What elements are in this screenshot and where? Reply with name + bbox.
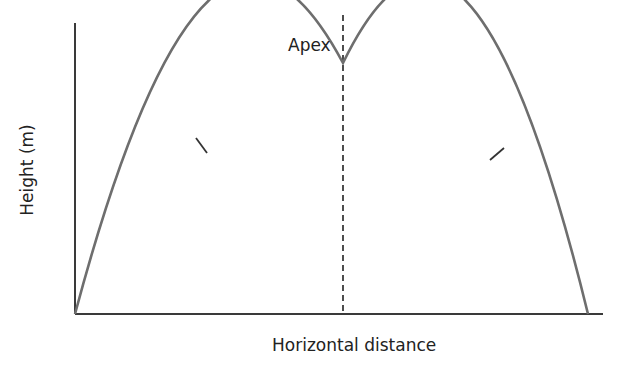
apex-label: Apex: [288, 35, 331, 55]
x-axis-label: Horizontal distance: [272, 335, 436, 355]
left-tick-mark: [196, 138, 207, 153]
y-axis-label: Height (m): [17, 124, 37, 215]
trajectory-diagram: [0, 0, 627, 373]
right-tick-mark: [490, 148, 504, 160]
trajectory-curve: [75, 0, 588, 314]
